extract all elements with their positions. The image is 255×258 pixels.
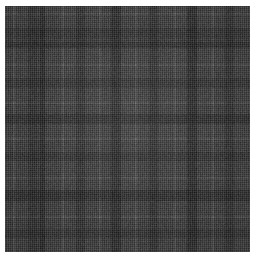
weft-band [5,190,250,201]
weft-band [5,179,250,190]
weft-stripe-layer [5,6,250,252]
weft-band [5,229,250,238]
weft-band [5,66,250,78]
weft-band [5,15,250,28]
weft-band [5,104,250,114]
weft-band [5,140,250,152]
weft-band [5,88,250,102]
image-canvas [0,0,255,258]
weft-band [5,28,250,38]
weft-band [5,78,250,88]
weft-band [5,201,250,216]
weft-band [5,152,250,161]
weft-band [5,114,250,124]
weft-band [5,124,250,138]
weft-band [5,48,250,64]
weft-band [5,218,250,229]
weft-band [5,6,250,13]
weft-band [5,238,250,252]
weft-band [5,161,250,177]
tartan-fabric-swatch [5,6,250,252]
